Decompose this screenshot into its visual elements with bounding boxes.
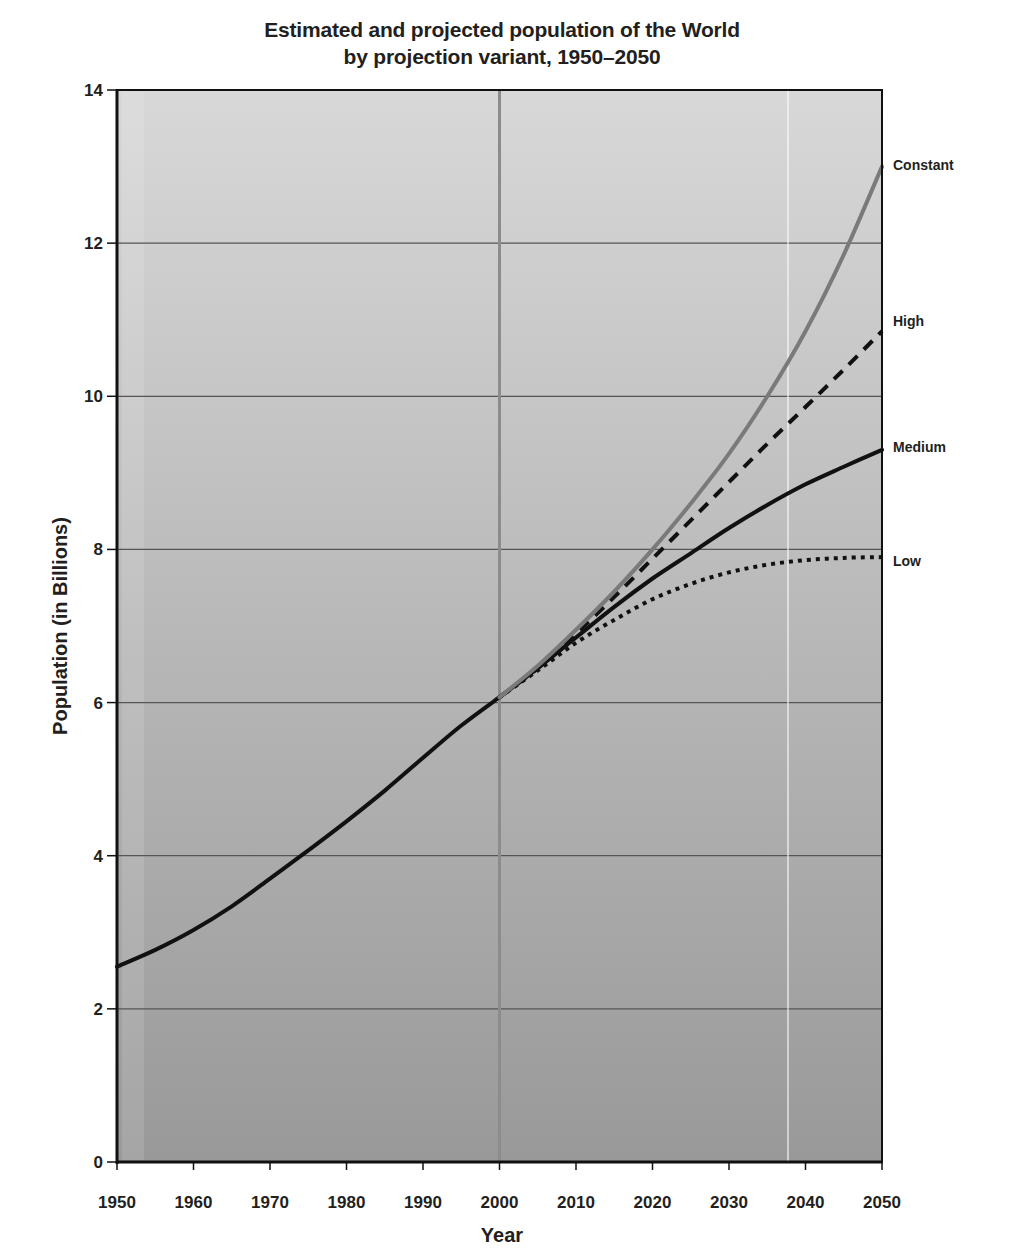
- y-tick-label: 10: [84, 387, 103, 406]
- plot-highlight-band: [122, 92, 144, 1160]
- x-tick-label: 2000: [481, 1193, 519, 1212]
- x-axis-title: Year: [481, 1224, 523, 1246]
- x-tick-label: 2010: [557, 1193, 595, 1212]
- x-tick-label: 1980: [328, 1193, 366, 1212]
- line-chart: 02468101214 1950196019701980199020002010…: [0, 0, 1011, 1252]
- x-tick-label: 1960: [175, 1193, 213, 1212]
- y-tick-label: 8: [94, 540, 103, 559]
- y-tick-label: 4: [94, 847, 104, 866]
- x-tick-label: 1970: [251, 1193, 289, 1212]
- series-label-constant: Constant: [893, 157, 954, 173]
- x-tick-label: 2050: [863, 1193, 901, 1212]
- x-axis-ticks: 1950196019701980199020002010202020302040…: [98, 1162, 901, 1212]
- y-tick-label: 12: [84, 234, 103, 253]
- y-axis-title: Population (in Billions): [49, 517, 71, 735]
- y-tick-label: 2: [94, 1000, 103, 1019]
- y-tick-label: 6: [94, 694, 103, 713]
- x-tick-label: 1990: [404, 1193, 442, 1212]
- series-label-medium: Medium: [893, 439, 946, 455]
- x-tick-label: 1950: [98, 1193, 136, 1212]
- series-labels: LowMediumHighConstant: [893, 157, 954, 569]
- y-axis-ticks: 02468101214: [84, 81, 117, 1172]
- x-tick-label: 2030: [710, 1193, 748, 1212]
- series-label-high: High: [893, 313, 924, 329]
- x-tick-label: 2020: [634, 1193, 672, 1212]
- x-tick-label: 2040: [787, 1193, 825, 1212]
- series-label-low: Low: [893, 553, 921, 569]
- y-tick-label: 0: [94, 1153, 103, 1172]
- y-tick-label: 14: [84, 81, 103, 100]
